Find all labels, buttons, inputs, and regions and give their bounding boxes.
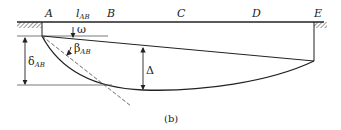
left-support-hatch [17,22,42,28]
figure-caption: (b) [164,113,178,124]
point-label-b: B [106,7,115,20]
deflection-diagram: A lAB B C D E ω βAB δAB Δ (b) [0,0,341,130]
point-label-e: E [313,7,322,20]
beta-label: βAB [74,42,91,56]
point-label-a: A [44,7,53,20]
Delta-label: Δ [146,64,154,77]
tangent-line [42,36,131,106]
point-label-d: D [251,7,261,20]
delta-ab-label: δAB [28,55,45,69]
point-label-c: C [177,7,186,20]
span-label-lab: lAB [76,7,90,21]
beta-arc [67,47,71,55]
omega-label: ω [77,23,86,36]
right-support-hatch [314,22,327,28]
elastic-curve [42,36,314,90]
